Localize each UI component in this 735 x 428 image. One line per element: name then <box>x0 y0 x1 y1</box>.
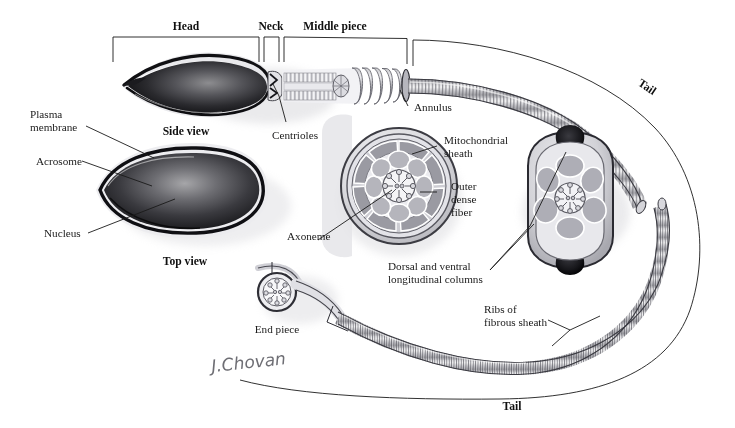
callout-longitudinal-columns-line1: Dorsal and ventral <box>388 260 471 272</box>
callout-longitudinal-columns: Dorsal and ventral longitudinal columns <box>388 260 483 285</box>
callout-plasma-membrane-line1: Plasma <box>30 108 62 120</box>
cross-section-principal-piece <box>528 125 613 275</box>
figure-canvas: Head Neck Middle piece Tail Tail <box>0 0 735 428</box>
caption-top-view: Top view <box>163 255 208 268</box>
caption-end-piece: End piece <box>255 323 299 335</box>
caption-side-view: Side view <box>163 125 210 138</box>
callout-nucleus: Nucleus <box>44 227 81 239</box>
axoneme-9plus2 <box>382 169 415 202</box>
bracket-label-head: Head <box>173 20 200 33</box>
callout-outer-dense-fiber-line3: fiber <box>451 206 472 218</box>
callout-centrioles: Centrioles <box>272 129 318 141</box>
callout-plasma-membrane-line2: membrane <box>30 121 77 133</box>
callout-mitochondrial-sheath-line2: sheath <box>444 147 473 159</box>
sperm-anatomy-figure: Head Neck Middle piece Tail Tail <box>0 0 735 428</box>
callout-mitochondrial-sheath-line1: Mitochondrial <box>444 134 508 146</box>
callout-longitudinal-columns-line2: longitudinal columns <box>388 273 483 285</box>
callout-ribs-fibrous-sheath-line2: fibrous sheath <box>484 316 547 328</box>
neck-and-centrioles <box>268 71 282 101</box>
callout-axoneme: Axoneme <box>287 230 331 242</box>
callout-outer-dense-fiber-line1: Outer <box>451 180 477 192</box>
bracket-label-middle-piece: Middle piece <box>303 20 366 33</box>
callout-ribs-fibrous-sheath-line1: Ribs of <box>484 303 517 315</box>
callout-annulus: Annulus <box>414 101 452 113</box>
callout-acrosome: Acrosome <box>36 155 82 167</box>
callout-outer-dense-fiber-line2: dense <box>451 193 477 205</box>
bracket-label-neck: Neck <box>258 20 284 33</box>
bracket-label-tail-bottom: Tail <box>503 400 523 413</box>
